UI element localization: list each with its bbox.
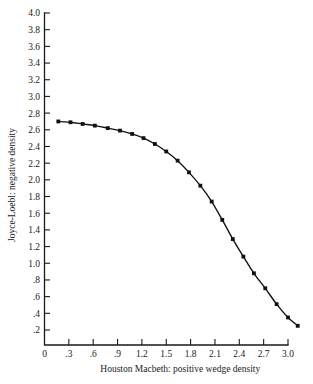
data-point-marker: [263, 286, 267, 290]
x-tick-label: 2.7: [258, 349, 270, 359]
y-axis-tick-marks: [45, 13, 51, 330]
x-tick-label: .9: [114, 349, 121, 359]
data-point-marker: [296, 324, 300, 328]
y-tick-label: 3.2: [28, 75, 40, 85]
x-tick-label: 2.4: [233, 349, 245, 359]
y-tick-label: 2.2: [28, 159, 40, 169]
data-point-marker: [130, 132, 134, 136]
y-tick-label: 2.0: [28, 175, 40, 185]
y-tick-label: 2.8: [28, 109, 40, 119]
y-tick-label: .4: [33, 309, 40, 319]
y-tick-label: 1.4: [28, 225, 40, 235]
x-tick-label: 1.8: [185, 349, 197, 359]
x-axis-tick-marks: [69, 339, 288, 345]
data-point-marker: [153, 142, 157, 146]
x-tick-label: 3.0: [282, 349, 294, 359]
data-point-marker: [241, 255, 245, 259]
y-tick-label: 1.0: [28, 259, 40, 269]
y-tick-label: 2.4: [28, 142, 40, 152]
y-tick-label: 3.0: [28, 92, 40, 102]
data-point-marker: [210, 200, 214, 204]
y-tick-label: 2.6: [28, 125, 40, 135]
data-curve: [58, 121, 297, 325]
data-point-marker: [220, 218, 224, 222]
x-axis-tick-labels: 0.3.6.91.21.51.82.12.42.73.0: [42, 349, 294, 359]
data-point-marker: [69, 120, 73, 124]
y-tick-label: 3.6: [28, 42, 40, 52]
data-point-marker: [198, 184, 202, 188]
data-point-marker: [275, 302, 279, 306]
data-point-marker: [164, 150, 168, 154]
data-point-marker: [286, 316, 290, 320]
y-tick-label: .6: [33, 292, 40, 302]
x-tick-label: 1.5: [160, 349, 172, 359]
x-axis-title: Houston Macbeth: positive wedge density: [100, 364, 260, 374]
chart-figure: .2.4.6.81.01.21.41.61.82.02.22.42.62.83.…: [0, 0, 313, 384]
data-point-marker: [81, 122, 85, 126]
x-tick-label: .3: [65, 349, 72, 359]
data-point-marker: [118, 129, 122, 133]
y-tick-label: 4.0: [28, 8, 40, 18]
calibration-plot: .2.4.6.81.01.21.41.61.82.02.22.42.62.83.…: [0, 0, 313, 384]
data-point-marker: [93, 124, 97, 128]
data-point-marker: [252, 271, 256, 275]
y-tick-label: 1.6: [28, 209, 40, 219]
data-point-marker: [176, 159, 180, 163]
data-point-marker: [231, 237, 235, 241]
data-point-marker: [56, 120, 60, 124]
data-point-marker: [142, 136, 146, 140]
data-markers: [56, 120, 299, 328]
y-tick-label: .2: [33, 325, 40, 335]
x-tick-label: 0: [42, 349, 47, 359]
y-tick-label: 3.4: [28, 58, 40, 68]
axis-spines: [45, 13, 289, 345]
x-tick-label: .6: [90, 349, 97, 359]
data-point-marker: [187, 170, 191, 174]
y-tick-label: 1.8: [28, 192, 40, 202]
y-axis-title: Joyce-Loebl: negative density: [7, 128, 17, 242]
y-tick-label: .8: [33, 275, 40, 285]
y-tick-label: 1.2: [28, 242, 40, 252]
data-point-marker: [106, 126, 110, 130]
x-tick-label: 1.2: [136, 349, 148, 359]
x-tick-label: 2.1: [209, 349, 221, 359]
y-axis-tick-labels: .2.4.6.81.01.21.41.61.82.02.22.42.62.83.…: [28, 8, 40, 335]
y-tick-label: 3.8: [28, 25, 40, 35]
